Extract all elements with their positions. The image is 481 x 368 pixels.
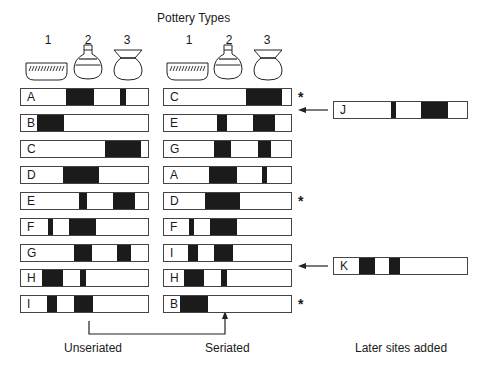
frequency-fill [246, 89, 282, 105]
frequency-fill [180, 296, 208, 312]
frequency-fill [389, 258, 400, 274]
jar-icon [254, 50, 282, 80]
site-label: I [170, 246, 173, 261]
frequency-fill [113, 193, 135, 209]
later-site-bar: J [333, 101, 468, 119]
frequency-fill [48, 219, 53, 235]
frequency-fill [391, 102, 396, 118]
flask-icon [214, 45, 242, 79]
seriated-site-bar: F [163, 218, 292, 236]
frequency-fill [69, 219, 96, 235]
unseriated-site-bar: E [20, 192, 149, 210]
frequency-fill [120, 89, 126, 105]
frequency-fill [253, 115, 275, 131]
frequency-fill [42, 270, 63, 286]
unseriated-site-bar: H [20, 269, 149, 287]
site-label: B [27, 116, 35, 131]
site-label: E [170, 116, 178, 131]
seriated-site-bar: A [163, 166, 292, 184]
later-site-bar: K [333, 257, 468, 275]
frequency-fill [205, 193, 240, 209]
unseriated-caption: Unseriated [64, 341, 122, 355]
frequency-fill [209, 167, 237, 183]
site-label: H [170, 271, 179, 286]
frequency-fill [47, 296, 57, 312]
bowl-icon [167, 63, 208, 80]
site-label: D [27, 168, 36, 183]
unseriated-site-bar: D [20, 166, 149, 184]
frequency-fill [37, 115, 64, 131]
frequency-fill [74, 296, 93, 312]
frequency-fill [184, 270, 204, 286]
site-label: F [170, 220, 177, 235]
site-label: G [27, 246, 36, 261]
frequency-fill [189, 219, 194, 235]
jar-icon [114, 50, 142, 80]
unseriated-site-bar: C [20, 140, 149, 158]
frequency-fill [117, 245, 131, 261]
unseriated-site-bar: I [20, 295, 149, 313]
seriated-site-bar: H [163, 269, 292, 287]
star-marker: * [298, 193, 303, 209]
frequency-fill [79, 193, 87, 209]
site-label: K [340, 259, 348, 274]
site-label: C [170, 90, 179, 105]
seriated-site-bar: D [163, 192, 292, 210]
unseriated-site-bar: G [20, 244, 149, 262]
frequency-fill [421, 102, 448, 118]
bowl-icon [26, 63, 67, 80]
frequency-fill [63, 167, 99, 183]
frequency-fill [74, 245, 92, 261]
site-label: C [27, 142, 36, 157]
frequency-fill [262, 167, 267, 183]
frequency-fill [221, 270, 227, 286]
unseriated-site-bar: B [20, 114, 149, 132]
site-label: A [170, 168, 178, 183]
frequency-fill [188, 245, 198, 261]
site-label: E [27, 194, 35, 209]
unseriated-site-bar: F [20, 218, 149, 236]
site-label: J [340, 103, 346, 118]
later-sites-caption: Later sites added [355, 341, 447, 355]
seriated-site-bar: I [163, 244, 292, 262]
frequency-fill [214, 141, 231, 157]
site-label: D [170, 194, 179, 209]
seriated-site-bar: C [163, 88, 292, 106]
seriated-caption: Seriated [205, 341, 250, 355]
frequency-fill [210, 219, 237, 235]
frequency-fill [66, 89, 94, 105]
frequency-fill [214, 245, 233, 261]
site-label: A [27, 90, 35, 105]
site-label: H [27, 271, 36, 286]
frequency-fill [105, 141, 141, 157]
frequency-fill [80, 270, 86, 286]
unseriated-site-bar: A [20, 88, 149, 106]
flask-icon [74, 45, 102, 79]
site-label: I [27, 297, 30, 312]
seriated-site-bar: B [163, 295, 292, 313]
site-label: B [170, 297, 178, 312]
site-label: F [27, 220, 34, 235]
seriated-site-bar: E [163, 114, 292, 132]
frequency-fill [217, 115, 227, 131]
seriated-site-bar: G [163, 140, 292, 158]
star-marker: * [298, 296, 303, 312]
site-label: G [170, 142, 179, 157]
star-marker: * [298, 89, 303, 105]
frequency-fill [359, 258, 375, 274]
frequency-fill [258, 141, 271, 157]
